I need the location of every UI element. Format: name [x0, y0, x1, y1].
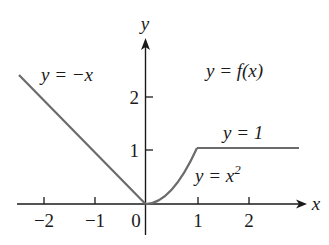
annotation-x-squared: y = x2 [193, 162, 241, 186]
y-tick-label: 1 [130, 140, 140, 161]
x-tick-label: 2 [244, 210, 254, 231]
series-x-squared [146, 148, 198, 204]
annotation-y-one: y = 1 [221, 122, 263, 143]
y-axis-label: y [139, 13, 150, 34]
piecewise-function-graph: −2 −1 0 1 2 1 2 x y y = −x y = f(x) y = … [0, 0, 329, 245]
chart-canvas: −2 −1 0 1 2 1 2 x y y = −x y = f(x) y = … [0, 0, 329, 245]
x-tick-label: 1 [193, 210, 203, 231]
annotation-x-squared-exponent: 2 [234, 162, 241, 177]
y-tick-label: 2 [130, 87, 140, 108]
annotation-neg-x: y = −x [39, 64, 94, 85]
x-tick-label: 0 [131, 210, 141, 231]
x-tick-label: −1 [85, 210, 105, 231]
x-tick-label: −2 [34, 210, 54, 231]
x-axis-label: x [311, 193, 321, 214]
annotation-f-of-x: y = f(x) [204, 60, 263, 82]
series-neg-x [19, 75, 146, 204]
annotation-x-squared-base: y = x [193, 165, 235, 186]
